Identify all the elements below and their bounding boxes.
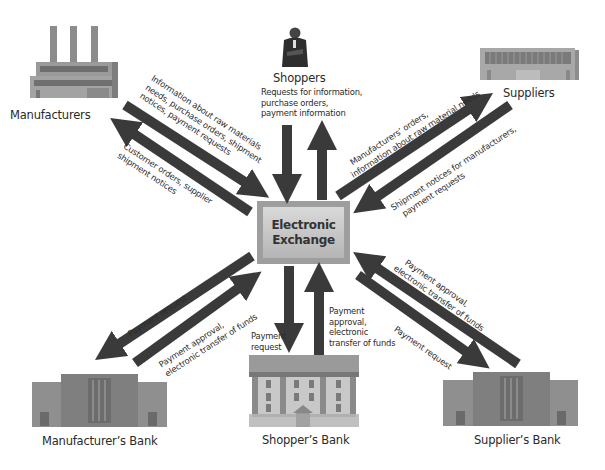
flow-label-line: purchase orders, bbox=[261, 98, 362, 109]
flow-label-shoppers-bank-to-exchange: Payment approval, electronic transfer of… bbox=[329, 306, 395, 348]
manufacturers-bank-label: Manufacturer’s Bank bbox=[42, 434, 157, 448]
flow-label-line: approval, bbox=[329, 317, 395, 328]
hub-label-line2: Exchange bbox=[272, 233, 335, 248]
flow-label-line: electronic bbox=[329, 327, 395, 338]
flow-label-line: payment information bbox=[261, 108, 362, 119]
bank-building-icon bbox=[443, 372, 578, 426]
shoppers-label: Shoppers bbox=[273, 71, 325, 85]
flow-label-line: Payment bbox=[251, 331, 286, 342]
shoppers-bank-label: Shopper’s Bank bbox=[262, 433, 349, 447]
ecommerce-exchange-diagram: Electronic Exchange Manufacturers Shoppe… bbox=[0, 0, 605, 470]
bank-building-icon bbox=[32, 374, 167, 427]
hub-label-line1: Electronic bbox=[271, 218, 335, 233]
electronic-exchange-label: Electronic Exchange bbox=[257, 201, 350, 264]
manufacturers-label: Manufacturers bbox=[10, 108, 90, 122]
flow-label-exchange-to-shoppers-bank: Payment request bbox=[251, 331, 286, 352]
suppliers-bank-label: Supplier’s Bank bbox=[474, 433, 561, 447]
flow-label-line: Requests for information, bbox=[261, 87, 362, 98]
warehouse-icon bbox=[480, 48, 579, 80]
flow-label-line: Payment bbox=[329, 306, 395, 317]
factory-icon bbox=[30, 26, 118, 98]
flow-label-line: request bbox=[251, 342, 286, 353]
suppliers-label: Suppliers bbox=[503, 86, 555, 100]
columned-bank-icon bbox=[249, 355, 359, 427]
flow-label-shoppers-to-exchange: Requests for information, purchase order… bbox=[261, 87, 362, 119]
businessman-icon bbox=[282, 28, 308, 68]
flow-label-line: transfer of funds bbox=[329, 338, 395, 349]
